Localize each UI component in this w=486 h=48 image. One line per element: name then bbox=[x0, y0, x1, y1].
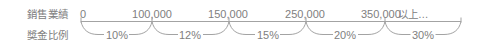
rate-label: 30% bbox=[412, 29, 434, 41]
threshold-label: 350,000 bbox=[361, 8, 401, 20]
threshold-label: 250,000 bbox=[285, 8, 325, 20]
bonus-rate-label: 獎金比例 bbox=[27, 29, 68, 41]
threshold-label: 100,000 bbox=[132, 8, 172, 20]
rate-label: 15% bbox=[257, 29, 279, 41]
threshold-label: 0 bbox=[80, 8, 86, 20]
rate-label: 12% bbox=[179, 29, 201, 41]
threshold-label: 150,000 bbox=[208, 8, 248, 20]
threshold-suffix: 以上… bbox=[398, 8, 429, 20]
rate-label: 10% bbox=[106, 29, 128, 41]
rate-label: 20% bbox=[334, 29, 356, 41]
bonus-tier-diagram: 銷售業績 獎金比例 0 100,000 150,000 250,000 350,… bbox=[0, 0, 486, 48]
sales-performance-label: 銷售業績 bbox=[27, 8, 68, 20]
